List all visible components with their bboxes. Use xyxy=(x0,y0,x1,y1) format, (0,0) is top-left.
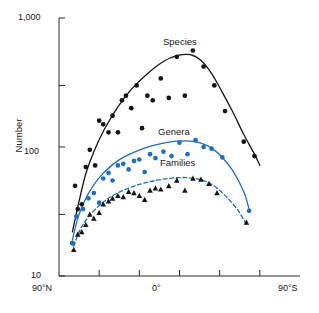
x-axis-tick-label-0: 0° xyxy=(152,283,161,293)
marker-species xyxy=(241,139,246,144)
marker-families xyxy=(158,186,164,191)
marker-genera xyxy=(91,191,96,196)
marker-species xyxy=(110,113,115,118)
marker-families xyxy=(142,197,148,202)
marker-families xyxy=(147,188,153,193)
marker-genera xyxy=(148,152,153,157)
data-markers xyxy=(70,48,257,252)
marker-genera xyxy=(126,167,131,172)
marker-genera xyxy=(74,214,79,219)
marker-species xyxy=(140,126,145,131)
marker-species xyxy=(75,207,80,212)
y-axis-tick-label-1000: 1,000 xyxy=(18,12,41,22)
series-label-species: Species xyxy=(163,36,197,47)
marker-families xyxy=(126,189,132,194)
marker-species xyxy=(83,165,88,170)
series-label-genera: Genera xyxy=(158,126,190,137)
marker-families xyxy=(71,247,77,252)
marker-genera xyxy=(161,149,166,154)
marker-species xyxy=(134,83,139,88)
marker-families xyxy=(83,222,89,227)
marker-families xyxy=(131,190,137,195)
series-label-families: Families xyxy=(160,157,195,168)
marker-species xyxy=(166,96,171,101)
x-axis-tick-label-90s: 90°S xyxy=(278,283,298,293)
y-axis-ticks xyxy=(59,18,65,276)
marker-genera xyxy=(220,155,225,160)
marker-families xyxy=(87,212,93,217)
marker-families xyxy=(166,183,172,188)
marker-species xyxy=(145,93,150,98)
marker-genera xyxy=(132,159,137,164)
y-axis-tick-label-100: 100 xyxy=(24,146,39,156)
y-axis-tick-label-10: 10 xyxy=(31,270,41,280)
marker-genera xyxy=(142,170,147,175)
marker-species xyxy=(150,98,155,103)
marker-species xyxy=(201,64,206,69)
marker-families xyxy=(174,178,180,183)
marker-species xyxy=(252,154,257,159)
marker-species xyxy=(106,130,111,135)
marker-genera xyxy=(97,200,102,205)
marker-genera xyxy=(201,145,206,150)
marker-species xyxy=(73,183,78,188)
marker-families xyxy=(182,188,188,193)
marker-species xyxy=(87,148,92,153)
marker-species xyxy=(212,83,217,88)
marker-genera xyxy=(177,140,182,145)
y-axis-title: Number xyxy=(13,106,24,166)
marker-species xyxy=(183,93,188,98)
marker-genera xyxy=(153,156,158,161)
marker-families xyxy=(137,193,143,198)
marker-genera xyxy=(70,241,75,246)
marker-genera xyxy=(106,171,111,176)
marker-species xyxy=(93,163,98,168)
marker-species xyxy=(124,93,129,98)
marker-species xyxy=(79,202,84,207)
chart-container: 1,000 100 10 90°N 0° 90°S Number Species… xyxy=(0,0,319,313)
marker-genera xyxy=(81,207,86,212)
x-axis-ticks xyxy=(99,270,260,276)
marker-species xyxy=(223,109,228,114)
marker-species xyxy=(97,118,102,123)
marker-genera xyxy=(193,138,198,143)
fitted-curves xyxy=(72,54,259,246)
marker-genera xyxy=(185,152,190,157)
marker-species xyxy=(116,130,121,135)
marker-species xyxy=(101,122,106,127)
marker-genera xyxy=(121,162,126,167)
marker-species xyxy=(174,54,179,59)
marker-species xyxy=(191,48,196,53)
marker-genera xyxy=(86,196,91,201)
marker-families xyxy=(214,190,220,195)
marker-genera xyxy=(101,176,106,181)
marker-genera xyxy=(110,178,115,183)
marker-species xyxy=(129,106,134,111)
x-axis-tick-label-90n: 90°N xyxy=(32,283,52,293)
marker-families xyxy=(153,185,159,190)
marker-genera xyxy=(209,146,214,151)
marker-families xyxy=(106,198,112,203)
marker-families xyxy=(121,194,127,199)
marker-species xyxy=(120,98,125,103)
marker-families xyxy=(96,210,102,215)
marker-genera xyxy=(137,157,142,162)
marker-genera xyxy=(116,163,121,168)
marker-genera xyxy=(247,208,252,213)
marker-species xyxy=(158,76,163,81)
